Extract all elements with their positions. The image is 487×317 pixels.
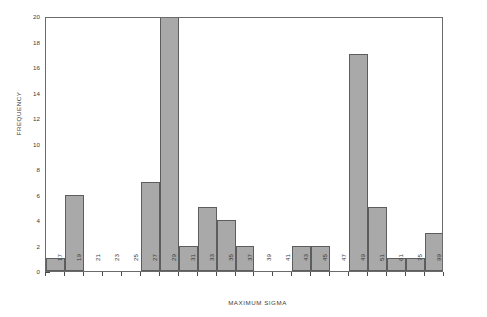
x-tick-label: 99 [436,254,442,294]
x-tick-label: 23 [114,254,120,294]
x-tick-label: 31 [190,254,196,294]
y-tick-label: 4 [10,218,40,224]
x-tick-mark [386,272,387,276]
x-tick-label: 19 [76,254,82,294]
x-tick-mark [329,272,330,276]
x-tick-label: 17 [57,254,63,294]
x-tick-mark [405,272,406,276]
y-tick-label: 16 [10,65,40,71]
x-tick-mark [291,272,292,276]
y-tick-label: 14 [10,91,40,97]
x-tick-label: 37 [247,254,253,294]
y-tick-label: 12 [10,116,40,122]
x-tick-label: 47 [341,254,347,294]
x-tick-label: 45 [322,254,328,294]
x-tick-label: 29 [171,254,177,294]
y-tick-label: 0 [10,269,40,275]
x-tick-label: 35 [228,254,234,294]
x-tick-mark [197,272,198,276]
x-tick-label: 25 [133,254,139,294]
x-tick-mark [83,272,84,276]
x-tick-label: 21 [95,254,101,294]
x-tick-label: 61 [398,254,404,294]
y-tick-label: 8 [10,167,40,173]
y-tick-label: 6 [10,193,40,199]
y-tick-label: 20 [10,14,40,20]
histogram-chart: FREQUENCY 02468101214161820 171921232527… [0,0,487,317]
x-tick-mark [272,272,273,276]
y-tick-label: 2 [10,244,40,250]
y-tick-label: 10 [10,142,40,148]
x-tick-mark [235,272,236,276]
x-tick-label: 41 [285,254,291,294]
x-tick-mark [45,272,46,276]
x-tick-mark [216,272,217,276]
x-tick-mark [253,272,254,276]
bar [349,54,368,271]
x-tick-mark [178,272,179,276]
x-tick-mark [367,272,368,276]
x-tick-mark [102,272,103,276]
x-tick-label: 27 [152,254,158,294]
x-tick-label: 39 [266,254,272,294]
x-tick-label: 33 [209,254,215,294]
x-tick-mark [443,272,444,276]
x-tick-mark [64,272,65,276]
x-tick-mark [121,272,122,276]
x-tick-label: 75 [417,254,423,294]
plot-frame [45,17,443,272]
plot-area [46,18,442,271]
x-tick-mark [424,272,425,276]
x-tick-label: 49 [360,254,366,294]
x-axis-title: MAXIMUM SIGMA [14,299,487,306]
y-tick-label: 18 [10,40,40,46]
bar [160,18,179,271]
x-tick-mark [140,272,141,276]
x-tick-label: 51 [379,254,385,294]
x-tick-label: 43 [303,254,309,294]
x-tick-mark [310,272,311,276]
x-tick-mark [348,272,349,276]
x-tick-mark [159,272,160,276]
